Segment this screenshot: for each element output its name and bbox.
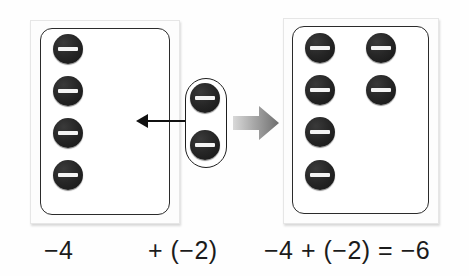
counter-negative — [305, 33, 335, 63]
minus-bar-icon — [310, 46, 330, 50]
counter-negative — [53, 118, 83, 148]
counter-negative — [305, 160, 335, 190]
counter-negative — [53, 76, 83, 106]
transform-arrow — [232, 103, 280, 143]
minus-bar-icon — [195, 96, 215, 100]
minus-bar-icon — [58, 47, 78, 51]
minus-bar-icon — [58, 173, 78, 177]
left-expression-label: −4 — [44, 236, 74, 265]
minus-bar-icon — [310, 173, 330, 177]
minus-bar-icon — [310, 88, 330, 92]
counter-negative — [366, 33, 396, 63]
middle-expression-label: + (−2) — [148, 236, 218, 265]
arrow-left-icon — [136, 114, 148, 128]
counter-negative — [305, 117, 335, 147]
counter-negative — [53, 34, 83, 64]
counter-negative — [190, 83, 220, 113]
minus-bar-icon — [310, 130, 330, 134]
figure-canvas: −4 + (−2) −4 + (−2) = −6 — [0, 0, 469, 276]
minus-bar-icon — [58, 89, 78, 93]
counter-negative — [305, 75, 335, 105]
minus-bar-icon — [58, 131, 78, 135]
move-arrow-shaft — [147, 120, 187, 122]
arrow-right-icon — [232, 103, 280, 143]
counter-negative — [366, 75, 396, 105]
minus-bar-icon — [371, 88, 391, 92]
counter-negative — [190, 130, 220, 160]
minus-bar-icon — [195, 143, 215, 147]
result-expression-label: −4 + (−2) = −6 — [264, 236, 430, 265]
counter-negative — [53, 160, 83, 190]
minus-bar-icon — [371, 46, 391, 50]
